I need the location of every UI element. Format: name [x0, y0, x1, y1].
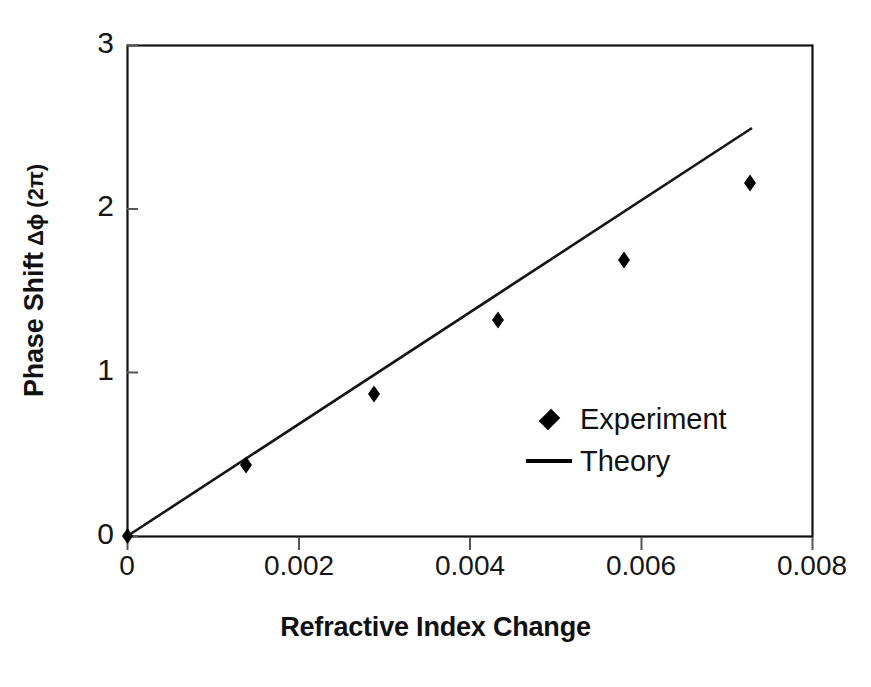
series-experiment-markers [122, 175, 756, 545]
data-point-marker [618, 252, 630, 269]
legend-item-theory: Theory [518, 440, 788, 482]
diamond-marker-icon [518, 413, 580, 426]
data-point-marker [368, 386, 380, 403]
y-tick-marks [127, 46, 138, 537]
x-axis-title: Refractive Index Change [0, 612, 871, 643]
legend-label: Theory [580, 447, 670, 476]
chart-legend: Experiment Theory [518, 398, 788, 482]
data-point-marker [122, 528, 133, 544]
legend-label: Experiment [580, 405, 727, 434]
x-tick-label: 0.002 [264, 552, 334, 580]
x-tick-label: 0.006 [606, 552, 676, 580]
chart-figure: Phase Shift Δϕ (2π) 3 2 1 0 [0, 0, 871, 687]
x-tick-label: 0.004 [435, 552, 505, 580]
legend-item-experiment: Experiment [518, 398, 788, 440]
data-point-marker [492, 312, 504, 329]
data-point-marker [240, 457, 252, 474]
x-tick-marks [128, 537, 813, 550]
x-axis-tick-labels: 0 0.002 0.004 0.006 0.008 [0, 552, 871, 596]
x-tick-label: 0.008 [777, 552, 847, 580]
data-point-marker [744, 175, 756, 192]
x-tick-label: 0 [119, 552, 135, 580]
line-segment-icon [518, 459, 580, 463]
